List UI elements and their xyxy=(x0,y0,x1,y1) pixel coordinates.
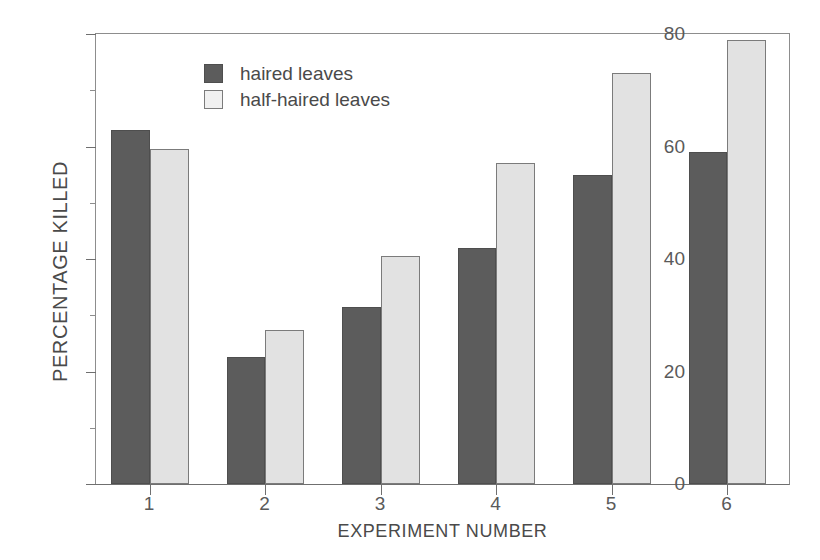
legend-swatch-dark-square xyxy=(204,64,223,83)
y-axis-tick-label: 80 xyxy=(645,23,685,45)
y-axis-tick-major xyxy=(86,147,96,148)
bar-haired-experiment-2 xyxy=(227,357,266,484)
x-axis-tick-label: 5 xyxy=(581,493,641,515)
bar-haired-experiment-6 xyxy=(689,152,728,484)
bar-haired-experiment-5 xyxy=(573,175,612,484)
legend-item-half-haired-leaves: half-haired leaves xyxy=(204,88,390,111)
x-axis-tick-label: 1 xyxy=(119,493,179,515)
y-axis-tick-label: 40 xyxy=(645,248,685,270)
x-axis-tick-label: 3 xyxy=(350,493,410,515)
legend-label-half-haired-leaves: half-haired leaves xyxy=(240,90,390,109)
x-axis-tick-label: 4 xyxy=(465,493,525,515)
y-axis-tick-minor xyxy=(90,315,96,316)
y-axis-tick-minor xyxy=(90,428,96,429)
x-axis-tick-label: 2 xyxy=(234,493,294,515)
bar-half-haired-experiment-2 xyxy=(265,330,304,484)
legend-label-haired-leaves: haired leaves xyxy=(240,64,353,83)
y-axis-tick-minor xyxy=(90,203,96,204)
x-axis-tick-label: 6 xyxy=(696,493,756,515)
y-axis-tick-major xyxy=(86,259,96,260)
plot-frame: 020406080 xyxy=(95,33,790,485)
y-axis-tick-minor xyxy=(90,90,96,91)
y-axis-tick-label: 60 xyxy=(645,136,685,158)
bar-half-haired-experiment-1 xyxy=(150,149,189,484)
legend-swatch-light-square xyxy=(204,90,223,109)
y-axis-tick-major xyxy=(86,372,96,373)
x-axis-title: EXPERIMENT NUMBER xyxy=(95,521,790,542)
bar-chart-figure: PERCENTAGE KILLED 020406080 haired leave… xyxy=(0,0,820,560)
bar-haired-experiment-4 xyxy=(458,248,497,484)
y-axis-title: PERCENTAGE KILLED xyxy=(49,62,72,482)
legend-item-haired-leaves: haired leaves xyxy=(204,62,390,85)
bar-haired-experiment-3 xyxy=(342,307,381,484)
y-axis-tick-major xyxy=(86,34,96,35)
y-axis-tick-major xyxy=(86,484,96,485)
bar-half-haired-experiment-6 xyxy=(727,40,766,484)
bar-half-haired-experiment-3 xyxy=(381,256,420,484)
y-axis-tick-label: 0 xyxy=(645,473,685,495)
bar-half-haired-experiment-4 xyxy=(496,163,535,484)
plot-area: 020406080 xyxy=(96,34,789,484)
chart-legend: haired leaves half-haired leaves xyxy=(204,62,390,111)
y-axis-tick-label: 20 xyxy=(645,361,685,383)
bar-half-haired-experiment-5 xyxy=(612,73,651,484)
bar-haired-experiment-1 xyxy=(111,130,150,484)
